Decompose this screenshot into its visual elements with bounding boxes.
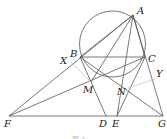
point-label-e: E: [111, 118, 120, 129]
segment-am: [91, 15, 133, 82]
point-label-n: N: [116, 86, 127, 97]
point-label-a: A: [136, 5, 144, 16]
point-label-f: F: [3, 118, 12, 129]
figure-caption: 图 1: [72, 136, 86, 139]
point-label-x: X: [59, 55, 68, 66]
geometry-figure: ABCDEFGMNXY 图 1: [0, 0, 167, 139]
point-label-g: G: [158, 118, 166, 129]
point-label-d: D: [98, 118, 107, 129]
point-label-b: B: [69, 48, 77, 59]
circumcircle: [80, 11, 146, 77]
point-label-m: M: [82, 84, 94, 95]
aux-segment-xm: [71, 62, 91, 82]
point-label-c: C: [148, 53, 156, 64]
segment-af: [9, 15, 133, 116]
segments-layer: [9, 11, 163, 116]
point-label-y: Y: [156, 68, 164, 79]
